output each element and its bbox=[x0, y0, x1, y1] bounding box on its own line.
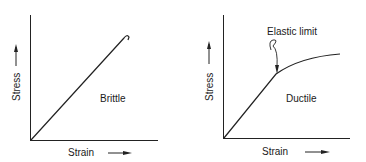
up-arrow-icon bbox=[14, 44, 18, 66]
up-arrow-icon bbox=[207, 41, 211, 64]
callout-arrow-icon bbox=[270, 40, 277, 67]
x-axis-label: Strain bbox=[262, 146, 288, 157]
y-axis-label: Stress bbox=[11, 73, 22, 101]
y-axis-label: Stress bbox=[204, 73, 215, 101]
stress-strain-figure: Brittle Stress Strain Elastic limit Duct… bbox=[0, 0, 366, 162]
brittle-chart: Brittle Stress Strain bbox=[11, 15, 158, 158]
ductile-chart: Elastic limit Ductile Stress Strain bbox=[204, 15, 350, 157]
ductile-label: Ductile bbox=[286, 93, 317, 104]
brittle-label: Brittle bbox=[100, 93, 126, 104]
brittle-curve bbox=[31, 36, 129, 140]
x-axis-label: Strain bbox=[68, 147, 94, 158]
right-arrow-icon bbox=[108, 151, 132, 155]
elastic-limit-callout: Elastic limit bbox=[267, 26, 317, 37]
right-arrow-icon bbox=[305, 150, 330, 154]
ductile-curve bbox=[224, 54, 340, 138]
